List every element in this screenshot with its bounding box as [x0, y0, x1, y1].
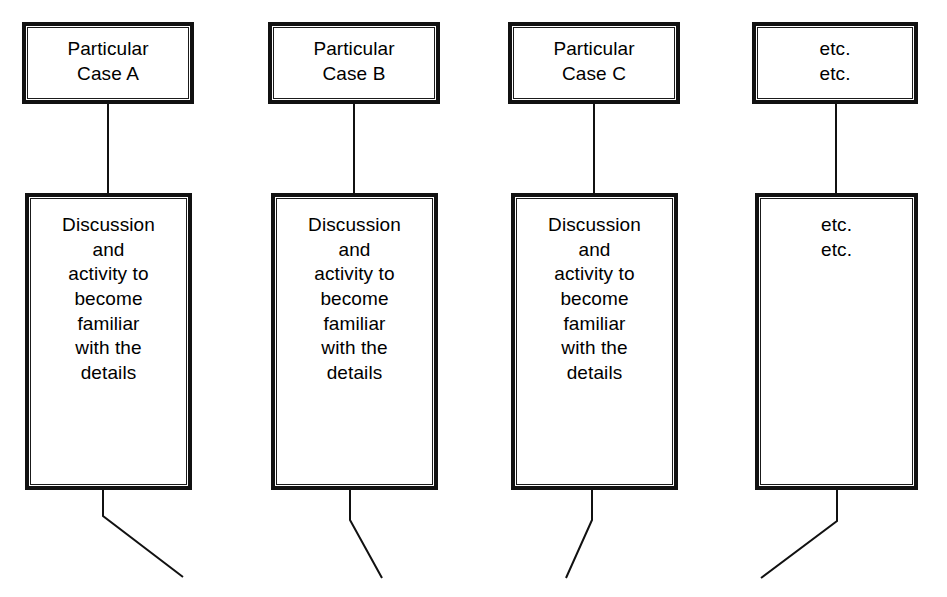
tail-connector-case-b [350, 490, 382, 578]
detail-box-label-case-a: Discussion and activity to become famili… [29, 213, 188, 386]
tail-connector-etc [761, 490, 837, 578]
top-box-case-c[interactable]: Particular Case C [508, 22, 680, 104]
top-box-label-case-c: Particular Case C [512, 37, 676, 86]
detail-box-case-a[interactable]: Discussion and activity to become famili… [25, 193, 192, 490]
detail-box-etc[interactable]: etc. etc. [755, 193, 918, 490]
diagram-canvas: Particular Case A Discussion and activit… [0, 0, 947, 597]
top-box-etc[interactable]: etc. etc. [752, 22, 918, 104]
detail-box-label-case-b: Discussion and activity to become famili… [275, 213, 434, 386]
top-box-case-b[interactable]: Particular Case B [268, 22, 440, 104]
tail-connector-case-c [566, 490, 592, 578]
detail-box-case-b[interactable]: Discussion and activity to become famili… [271, 193, 438, 490]
detail-box-case-c[interactable]: Discussion and activity to become famili… [511, 193, 678, 490]
top-box-label-case-a: Particular Case A [26, 37, 190, 86]
detail-box-label-case-c: Discussion and activity to become famili… [515, 213, 674, 386]
tail-connector-case-a [103, 490, 183, 577]
top-box-label-etc: etc. etc. [756, 37, 914, 86]
detail-box-label-etc: etc. etc. [759, 213, 914, 262]
top-box-label-case-b: Particular Case B [272, 37, 436, 86]
top-box-case-a[interactable]: Particular Case A [22, 22, 194, 104]
